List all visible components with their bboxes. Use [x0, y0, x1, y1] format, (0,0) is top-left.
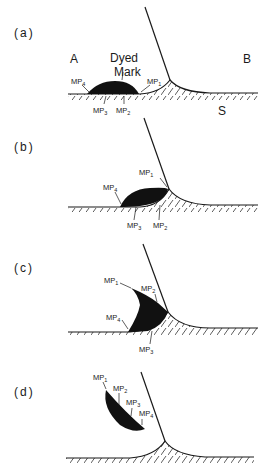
pointer-mp4: [122, 320, 128, 329]
marker-mp3: MP3: [126, 398, 140, 408]
dyed-mark: [87, 81, 139, 94]
panel-b: (b) MP4 MP1 MP3 MP2: [14, 118, 258, 231]
pointer-mp2: [155, 294, 157, 302]
region-label-s: S: [218, 104, 226, 118]
dyed-mark-label-line2: Mark: [114, 65, 142, 79]
region-label-b: B: [243, 52, 251, 66]
marker-mp4: MP4: [139, 409, 153, 419]
panel-label-d: (d): [14, 385, 35, 399]
marker-mp3: MP3: [139, 345, 153, 355]
grain-boundary: [145, 7, 170, 80]
marker-mp4: MP4: [103, 183, 117, 193]
region-label-a: A: [70, 52, 78, 66]
grain-boundary: [144, 118, 169, 189]
panel-label-c: (c): [14, 261, 34, 275]
marker-mp1: MP1: [93, 373, 107, 383]
marker-mp2: MP2: [113, 384, 127, 394]
grain-boundary: [141, 372, 165, 441]
marker-mp2: MP2: [141, 284, 155, 294]
dyed-mark-diagram: (a) A B S Dyed Mark MP4 MP1 MP3 MP2 (b): [0, 0, 268, 476]
marker-mp2: MP2: [153, 221, 167, 231]
marker-mp3: MP3: [93, 106, 107, 116]
pointer-mp1: [141, 85, 150, 92]
substrate-hatching: [66, 441, 254, 464]
panel-label-a: (a): [14, 26, 35, 40]
panel-d: (d) MP1 MP2 MP3 MP4: [14, 372, 254, 464]
panel-c: (c) MP1 MP2 MP4 MP3: [14, 244, 258, 355]
marker-mp4: MP4: [71, 77, 85, 87]
panel-label-b: (b): [14, 140, 35, 154]
panel-a: (a) A B S Dyed Mark MP4 MP1 MP3 MP2: [14, 7, 258, 118]
marker-mp1: MP1: [139, 168, 153, 178]
marker-mp1: MP1: [147, 77, 161, 87]
marker-mp1: MP1: [104, 276, 118, 286]
marker-mp2: MP2: [116, 106, 130, 116]
marker-mp3: MP3: [127, 221, 141, 231]
dyed-mark-label-line1: Dyed: [110, 51, 138, 65]
pointer-mp3: [131, 408, 132, 416]
marker-mp4: MP4: [106, 313, 120, 323]
pointer-mp1: [103, 382, 106, 389]
pointer-mp1: [120, 283, 131, 288]
pointer-mp4: [115, 192, 121, 204]
